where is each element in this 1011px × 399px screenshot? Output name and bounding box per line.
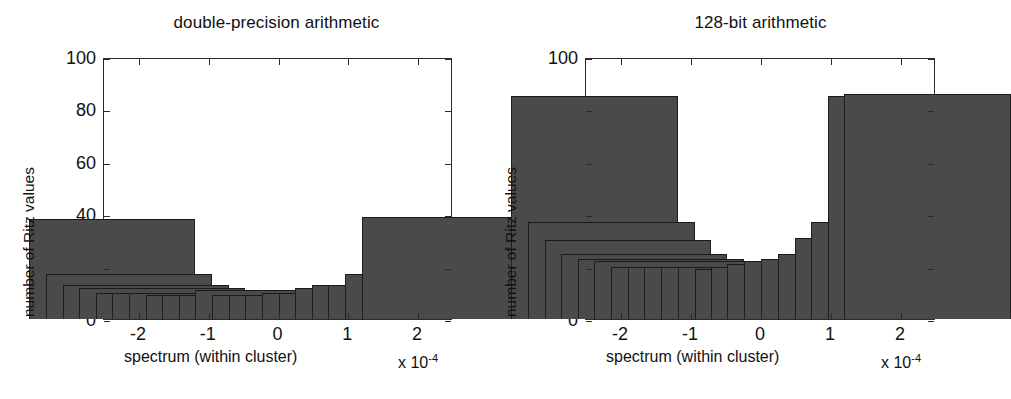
x-axis-exponent-right: x 10-4 — [881, 352, 921, 372]
x-axis-tick — [831, 59, 832, 65]
exponent-prefix-left: x 10 — [398, 354, 428, 371]
x-axis-tick — [348, 59, 349, 65]
x-axis-tick — [279, 59, 280, 65]
y-tick-label: 100 — [548, 48, 578, 69]
y-axis-tick — [445, 164, 451, 165]
x-tick-label: 1 — [825, 324, 835, 345]
x-tick-label: -2 — [130, 324, 146, 345]
y-axis-label-right: number of Ritz values — [502, 167, 520, 317]
x-tick-label: -1 — [682, 324, 698, 345]
x-axis-tick — [691, 59, 692, 65]
histogram-bar — [844, 94, 1011, 319]
x-axis-tick — [831, 313, 832, 319]
x-axis-tick — [418, 313, 419, 319]
x-axis-tick — [621, 313, 622, 319]
x-tick-labels-right: -2-1012 — [585, 324, 935, 350]
y-axis-tick — [104, 269, 110, 270]
y-axis-tick — [928, 164, 934, 165]
bars-double-precision — [104, 59, 451, 319]
panel-128-bit: 128-bit arithmetic 020406080100 -2-1012 … — [486, 0, 971, 399]
x-axis-tick — [209, 313, 210, 319]
y-axis-tick — [445, 269, 451, 270]
x-tick-labels-left: -2-1012 — [103, 324, 452, 350]
y-tick-label: 100 — [66, 48, 96, 69]
y-tick-label: 60 — [76, 152, 96, 173]
x-axis-tick — [761, 313, 762, 319]
exponent-power-left: -4 — [428, 352, 438, 364]
y-axis-tick — [928, 269, 934, 270]
x-axis-tick — [209, 59, 210, 65]
x-tick-label: 1 — [342, 324, 352, 345]
x-axis-tick — [139, 313, 140, 319]
panel-title-128-bit: 128-bit arithmetic — [486, 13, 971, 33]
x-tick-label: -2 — [612, 324, 628, 345]
y-axis-tick — [104, 164, 110, 165]
x-axis-tick — [691, 313, 692, 319]
y-axis-tick — [586, 111, 592, 112]
x-tick-label: 0 — [755, 324, 765, 345]
y-axis-tick — [586, 269, 592, 270]
plot-area-128-bit — [585, 58, 935, 320]
x-axis-tick — [901, 313, 902, 319]
x-axis-label-left: spectrum (within cluster) — [124, 348, 297, 366]
x-axis-tick — [761, 59, 762, 65]
x-axis-exponent-left: x 10-4 — [398, 352, 438, 372]
y-axis-tick — [104, 321, 110, 322]
bars-128-bit — [586, 59, 934, 319]
x-axis-tick — [348, 313, 349, 319]
plot-area-double-precision — [103, 58, 452, 320]
y-axis-tick — [104, 111, 110, 112]
x-axis-tick — [901, 59, 902, 65]
x-tick-label: 2 — [412, 324, 422, 345]
y-axis-tick — [928, 321, 934, 322]
y-axis-label-left: number of Ritz values — [20, 167, 38, 317]
y-tick-label: 80 — [76, 100, 96, 121]
y-axis-tick — [928, 59, 934, 60]
y-axis-tick — [928, 216, 934, 217]
x-axis-tick — [279, 313, 280, 319]
y-axis-tick — [445, 111, 451, 112]
y-axis-tick — [928, 111, 934, 112]
y-axis-tick — [586, 216, 592, 217]
y-axis-tick — [445, 216, 451, 217]
y-axis-tick — [104, 59, 110, 60]
y-axis-tick — [586, 59, 592, 60]
x-tick-label: 0 — [272, 324, 282, 345]
x-axis-label-right: spectrum (within cluster) — [606, 348, 779, 366]
panel-double-precision: double-precision arithmetic 020406080100… — [0, 0, 485, 399]
x-tick-label: 2 — [895, 324, 905, 345]
y-axis-tick — [445, 59, 451, 60]
y-axis-tick — [445, 321, 451, 322]
y-axis-tick — [104, 216, 110, 217]
x-axis-tick — [418, 59, 419, 65]
x-axis-tick — [139, 59, 140, 65]
y-axis-tick — [586, 321, 592, 322]
exponent-prefix-right: x 10 — [881, 354, 911, 371]
x-axis-tick — [621, 59, 622, 65]
y-axis-tick — [586, 164, 592, 165]
exponent-power-right: -4 — [911, 352, 921, 364]
x-tick-label: -1 — [200, 324, 216, 345]
panel-title-double-precision: double-precision arithmetic — [0, 13, 485, 33]
